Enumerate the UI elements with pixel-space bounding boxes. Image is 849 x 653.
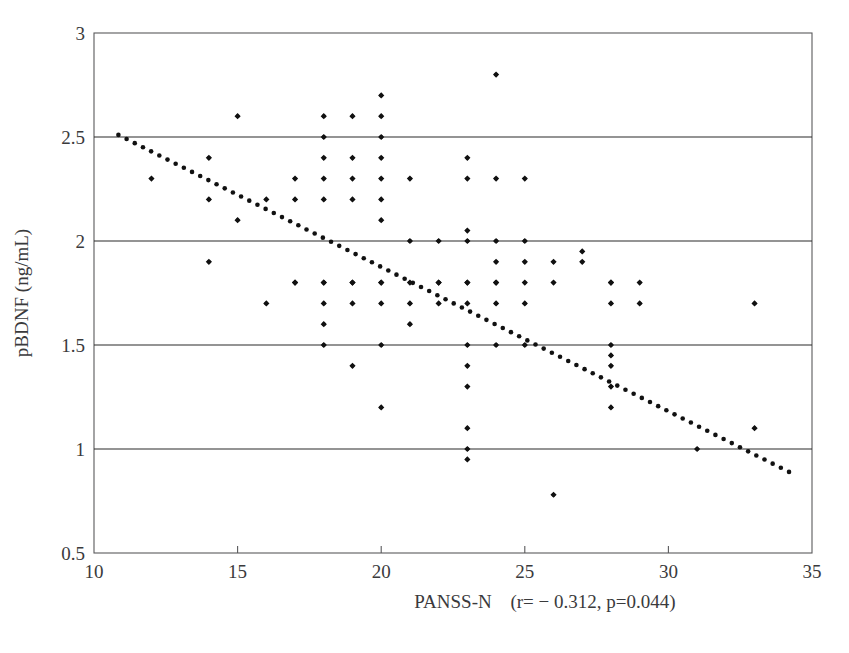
data-point-core [351, 156, 355, 160]
x-tick-labels-group: 101520253035 [85, 561, 822, 582]
data-point-core [523, 239, 527, 243]
trendline-dot [738, 445, 743, 450]
x-tick-label-35: 35 [803, 561, 822, 582]
trendline-dot [607, 379, 612, 384]
trendline-dot [337, 244, 342, 249]
trendline-dot [460, 305, 465, 310]
data-point-core [379, 218, 383, 222]
trendline-dot [329, 239, 334, 244]
trendline-dot [419, 285, 424, 290]
trendline-dot [729, 441, 734, 446]
data-point-core [523, 177, 527, 181]
x-tick-marks-group [238, 546, 669, 553]
trendline-dot [149, 149, 154, 154]
data-point-core [207, 260, 211, 264]
y-tick-label-2: 2 [76, 231, 86, 252]
trendline-dot [124, 137, 129, 142]
data-point-core [753, 426, 757, 430]
trendline-dot [435, 293, 440, 298]
trendline-dot [672, 412, 677, 417]
trendline-dot [222, 186, 227, 191]
trendline-dot [427, 289, 432, 294]
trendline-dot [255, 202, 260, 207]
trendline-dot [640, 396, 645, 401]
trendline-dot [484, 318, 489, 323]
data-point-core [465, 156, 469, 160]
x-tick-label-15: 15 [228, 561, 247, 582]
data-point-core [351, 364, 355, 368]
y-tick-labels-group: 32.521.510.5 [61, 23, 85, 564]
correlation-statistics-annotation: (r= − 0.312, p=0.044) [510, 591, 675, 613]
scatter-plot: 101520253035 32.521.510.5 PANSS-N pBDNF … [0, 0, 849, 653]
y-tick-label-1.5: 1.5 [61, 335, 85, 356]
trendline-dot [648, 400, 653, 405]
data-point-core [552, 493, 556, 497]
data-point-core [523, 302, 527, 306]
data-point-core [552, 281, 556, 285]
data-point-core [753, 302, 757, 306]
data-point-core [264, 198, 268, 202]
trendline-dot [394, 272, 399, 277]
x-axis-title: PANSS-N [414, 591, 492, 612]
data-point-core [408, 177, 412, 181]
trendline-dot [280, 215, 285, 220]
x-tick-label-30: 30 [659, 561, 678, 582]
data-point-core [609, 343, 613, 347]
trendline-dot [558, 355, 563, 360]
trendline-dot [206, 178, 211, 183]
x-tick-label-10: 10 [85, 561, 104, 582]
trendline-dot [451, 301, 456, 306]
data-point-core [609, 302, 613, 306]
data-point-core [293, 177, 297, 181]
data-point-core [351, 198, 355, 202]
plot-area-border [94, 33, 812, 553]
plot-frame [94, 33, 812, 553]
data-point-core [351, 177, 355, 181]
trendline-dot [247, 198, 252, 203]
trendline-dot [541, 346, 546, 351]
data-point-core [379, 281, 383, 285]
trendline-dot [705, 428, 710, 433]
trendline-dot [787, 470, 792, 475]
data-point-core [379, 177, 383, 181]
data-point-core [494, 260, 498, 264]
data-point-core [322, 135, 326, 139]
trendline-dot [550, 350, 555, 355]
y-tick-label-2.5: 2.5 [61, 127, 85, 148]
data-point-core [494, 302, 498, 306]
data-point-core [322, 177, 326, 181]
trendline-dot [378, 264, 383, 269]
data-point-core [351, 114, 355, 118]
trendline-dot [173, 161, 178, 166]
data-point-core [465, 447, 469, 451]
trendline-dot [370, 260, 375, 265]
trendline-dot [304, 227, 309, 232]
trendline-dot [779, 465, 784, 470]
trendline-dot [182, 165, 187, 170]
trendline-dot [697, 424, 702, 429]
trendline-dot [533, 342, 538, 347]
trendline-dot [239, 194, 244, 199]
trendline-dot [272, 211, 277, 216]
trendline-dot [361, 256, 366, 261]
data-point-core [351, 302, 355, 306]
trendline-dot [582, 367, 587, 372]
data-point-core [379, 406, 383, 410]
trendline-dot [713, 433, 718, 438]
figure-container: 101520253035 32.521.510.5 PANSS-N pBDNF … [0, 0, 849, 653]
trendline-dot [190, 170, 195, 175]
trendline-dot [231, 190, 236, 195]
x-tick-label-20: 20 [372, 561, 391, 582]
trendline-dot [746, 449, 751, 454]
trendline-dot [664, 408, 669, 413]
x-tick-label-25: 25 [515, 561, 534, 582]
trendline-dot [288, 219, 293, 224]
data-point-core [523, 260, 527, 264]
data-point-core [609, 364, 613, 368]
trendline-dot [386, 268, 391, 273]
data-point-core [465, 302, 469, 306]
data-point-core [351, 281, 355, 285]
data-point-core [437, 239, 441, 243]
data-point-core [322, 114, 326, 118]
data-point-core [379, 114, 383, 118]
